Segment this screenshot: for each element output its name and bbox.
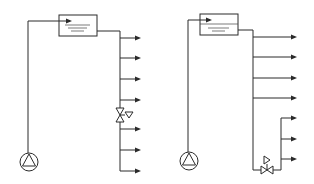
left-diagram <box>20 15 141 174</box>
right-supply-pipe <box>188 20 210 152</box>
right-main-riser <box>238 30 261 170</box>
right-pump-icon <box>180 152 198 170</box>
left-pump-icon <box>20 153 38 171</box>
right-inlet-arrow-icon <box>206 18 212 23</box>
right-tank <box>200 14 238 35</box>
right-secondary-branches <box>281 116 297 162</box>
left-inlet-arrow-icon <box>66 19 72 24</box>
left-valve-icon <box>116 108 133 122</box>
right-secondary-riser <box>273 118 281 170</box>
left-tank <box>59 15 97 36</box>
left-supply-pipe <box>28 21 70 153</box>
hydraulic-diagrams <box>0 0 314 184</box>
right-valve-icon <box>261 156 273 174</box>
left-tank-outlet <box>97 31 120 108</box>
right-diagram <box>180 14 297 174</box>
right-main-branches <box>253 35 297 101</box>
left-branches <box>120 36 141 174</box>
